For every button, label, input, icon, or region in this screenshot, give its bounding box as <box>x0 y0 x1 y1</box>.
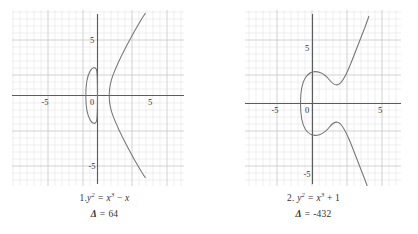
equation-1-rhs-term: x <box>125 193 129 203</box>
discriminant-2-equals: = <box>302 209 314 219</box>
equation-2-rhs-term: 1 <box>335 193 340 203</box>
caption-1-discriminant: Δ=64 <box>0 209 209 219</box>
equation-2-operator: + <box>324 193 335 203</box>
x-tick-zero-2: 0 <box>305 105 309 115</box>
y-tick-neg5-1: -5 <box>88 161 95 171</box>
discriminant-2-symbol: Δ <box>296 209 302 219</box>
grid-major-2 <box>245 10 401 186</box>
figure-1: -5 0 5 5 -5 1.y2=x3−x Δ= <box>0 0 209 234</box>
plot-2-svg: -5 0 5 5 -5 <box>245 10 401 186</box>
curve-2-upper <box>301 16 370 104</box>
equation-2-index: 2. <box>287 193 295 203</box>
discriminant-1-equals: = <box>97 209 109 219</box>
discriminant-1-symbol: Δ <box>91 209 97 219</box>
x-tick-neg5-1: -5 <box>41 97 48 107</box>
figure-2: -5 0 5 5 -5 2. y2=x3+1 Δ=-432 <box>209 0 418 234</box>
caption-2-equation: 2. y2=x3+1 <box>209 193 418 203</box>
plot-1-svg: -5 0 5 5 -5 <box>12 10 184 186</box>
axes-2 <box>245 14 401 184</box>
y-tick-neg5-2: -5 <box>303 169 310 179</box>
caption-1-equation: 1.y2=x3−x <box>0 193 209 203</box>
discriminant-1: Δ=64 <box>91 209 119 219</box>
x-tick-pos5-2: 5 <box>378 105 382 115</box>
discriminant-2: Δ=-432 <box>296 209 332 219</box>
grid-minor-2 <box>245 10 401 186</box>
plot-2-container: -5 0 5 5 -5 <box>245 10 401 186</box>
elliptic-curve-figure-page: -5 0 5 5 -5 1.y2=x3−x Δ= <box>0 0 418 234</box>
equation-1-operator: − <box>114 193 125 203</box>
tick-labels-2: -5 0 5 5 -5 <box>271 43 382 179</box>
equation-2-equals: = <box>305 193 317 203</box>
x-tick-zero-1: 0 <box>90 97 94 107</box>
equation-1: 1.y2=x3−x <box>80 193 130 203</box>
curve-2-group <box>301 16 370 186</box>
y-tick-pos5-2: 5 <box>305 43 309 53</box>
discriminant-2-value: -432 <box>313 209 331 219</box>
equation-1-equals: = <box>95 193 107 203</box>
discriminant-1-value: 64 <box>108 209 118 219</box>
plot-1-container: -5 0 5 5 -5 <box>12 10 184 186</box>
caption-2-discriminant: Δ=-432 <box>209 209 418 219</box>
equation-1-index: 1. <box>80 193 88 203</box>
equation-2: 2. y2=x3+1 <box>287 193 340 203</box>
x-tick-neg5-2: -5 <box>271 105 278 115</box>
x-tick-pos5-1: 5 <box>148 97 152 107</box>
y-tick-pos5-1: 5 <box>90 35 94 45</box>
